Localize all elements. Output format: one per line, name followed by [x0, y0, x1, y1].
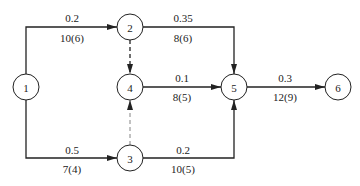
edge-3-5-bottom-label: 10(5) [171, 163, 195, 176]
node-2: 2 [117, 14, 143, 40]
node-2-label: 2 [127, 22, 133, 34]
edge-4-5: 0.1 8(5) [143, 72, 221, 104]
edge-5-6: 0.3 12(9) [247, 72, 325, 104]
edge-4-5-top-label: 0.1 [175, 72, 189, 84]
edge-1-2: 0.2 10(6) [26, 12, 117, 74]
edge-5-6-top-label: 0.3 [278, 72, 292, 84]
edge-3-5: 0.2 10(5) [143, 100, 234, 176]
node-6-label: 6 [335, 82, 341, 94]
network-diagram: 0.2 10(6) 0.5 7(4) 0.35 8(6) 0.1 8(5) 0.… [0, 0, 360, 186]
node-4-label: 4 [127, 82, 133, 94]
edge-1-3-top-label: 0.5 [65, 144, 79, 156]
edge-1-3: 0.5 7(4) [26, 100, 117, 176]
edge-1-3-bottom-label: 7(4) [63, 163, 82, 176]
edge-4-5-bottom-label: 8(5) [173, 91, 192, 104]
edge-3-5-top-label: 0.2 [176, 144, 190, 156]
edge-2-5: 0.35 8(6) [143, 12, 234, 74]
edge-5-6-bottom-label: 12(9) [273, 91, 297, 104]
node-6: 6 [325, 74, 351, 100]
node-1: 1 [13, 74, 39, 100]
node-3: 3 [117, 145, 143, 171]
node-3-label: 3 [127, 153, 133, 165]
node-1-label: 1 [23, 82, 29, 94]
edge-2-5-bottom-label: 8(6) [174, 32, 193, 45]
node-5-label: 5 [231, 82, 237, 94]
node-5: 5 [221, 74, 247, 100]
edge-1-2-bottom-label: 10(6) [60, 32, 84, 45]
node-4: 4 [117, 74, 143, 100]
edge-2-5-top-label: 0.35 [173, 12, 193, 24]
edge-1-2-top-label: 0.2 [65, 12, 79, 24]
